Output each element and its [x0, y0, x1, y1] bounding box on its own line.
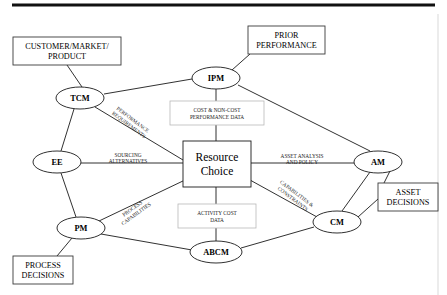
pm-label: PM [74, 224, 87, 233]
box-asset-decisions[interactable]: ASSETDECISIONS [378, 183, 438, 211]
edge-pm-to-abcm [101, 234, 192, 250]
ee-label: EE [51, 158, 63, 167]
annotation-cost-non-cost-performance-data: COST & NON-COSTPERFORMANCE DATA [170, 101, 264, 125]
box-prior-performance[interactable]: PRIORPERFORMANCE [248, 26, 325, 54]
tcm-label: TCM [70, 94, 90, 103]
edge-cm-to-asset-dec [358, 199, 378, 217]
edge-pm-to-center [99, 180, 185, 221]
edge-label-process-capabilities-text: PROCESSCAPABILITIES [116, 196, 152, 227]
diagram-svg: COST & NON-COSTPERFORMANCE DATAACTIVITY … [0, 0, 447, 295]
ipm-label: IPM [208, 74, 224, 83]
node-resource-choice[interactable]: ResourceChoice [183, 141, 251, 187]
node-abcm[interactable]: ABCM [190, 241, 242, 263]
am-label: AM [371, 158, 385, 167]
node-tcm[interactable]: TCM [56, 87, 104, 109]
annotation-activity-cost-data: ACTIVITY COSTDATA [178, 204, 256, 228]
cost-non-cost-performance-data-label: COST & NON-COSTPERFORMANCE DATA [190, 107, 244, 120]
process-decisions-label-text: PROCESSDECISIONS [22, 261, 65, 280]
node-pm[interactable]: PM [57, 217, 105, 239]
edge-prior-to-ipm [232, 54, 250, 70]
node-ipm[interactable]: IPM [192, 67, 240, 89]
edge-abcm-to-cm [241, 227, 314, 248]
box-process-decisions[interactable]: PROCESSDECISIONS [13, 256, 73, 284]
edge-label-sourcing-alternatives: SOURCINGALTERNATIVES [109, 152, 148, 165]
diagram-canvas: COST & NON-COSTPERFORMANCE DATAACTIVITY … [0, 0, 447, 295]
process-decisions-label: PROCESSDECISIONS [22, 261, 65, 280]
edge-pm-to-process-dec [57, 238, 72, 256]
edge-ee-to-pm [61, 173, 76, 217]
edge-am-to-cm [342, 172, 370, 211]
node-am[interactable]: AM [354, 151, 402, 173]
edge-label-process-capabilities: PROCESSCAPABILITIES [116, 196, 152, 227]
cm-label: CM [330, 218, 344, 227]
cost-non-cost-performance-data-label-text: COST & NON-COSTPERFORMANCE DATA [190, 107, 244, 120]
edge-label-performance-requirements: PERFORMANCEREQUIREMENTS [111, 105, 151, 140]
edge-label-asset-analysis-and-policy: ASSET ANALYSISAND POLICY [281, 153, 324, 166]
edge-tcm-to-ee [61, 109, 74, 151]
edge-label-capabilities-constraints: CAPABILITIES &CONSTRAINTS [275, 179, 316, 214]
edge-customer-to-tcm [67, 65, 82, 87]
edge-label-performance-requirements-text: PERFORMANCEREQUIREMENTS [111, 105, 151, 140]
edge-label-capabilities-constraints-text: CAPABILITIES &CONSTRAINTS [275, 179, 316, 214]
node-cm[interactable]: CM [313, 211, 361, 233]
abcm-label: ABCM [203, 248, 229, 257]
edge-label-sourcing-alternatives-text: SOURCINGALTERNATIVES [109, 152, 148, 165]
edge-tcm-to-ipm [104, 79, 192, 94]
node-ee[interactable]: EE [33, 151, 81, 173]
resource-choice-box[interactable] [183, 141, 251, 187]
box-customer-market-product[interactable]: CUSTOMER/MARKET/PRODUCT [13, 37, 121, 65]
edge-label-asset-analysis-and-policy-text: ASSET ANALYSISAND POLICY [281, 153, 324, 166]
